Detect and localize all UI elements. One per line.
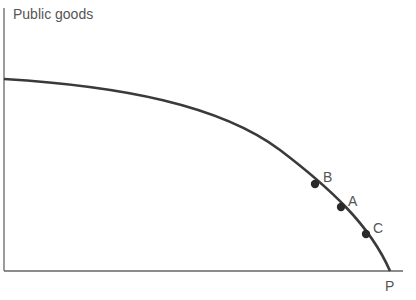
point-a-label: A: [348, 194, 357, 208]
point-b-label: B: [323, 170, 332, 184]
point-c-label: C: [373, 221, 383, 235]
diagram-svg: [0, 0, 416, 300]
point-c-marker: [362, 230, 370, 238]
point-b-marker: [311, 180, 319, 188]
x-axis-end-label: P: [385, 279, 394, 293]
point-a-marker: [337, 203, 345, 211]
y-axis-label: Public goods: [13, 7, 93, 21]
ppf-diagram: Public goods B A C P: [0, 0, 416, 300]
